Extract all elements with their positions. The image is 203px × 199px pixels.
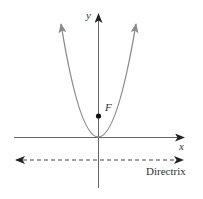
focus-label: F bbox=[104, 101, 112, 113]
parabola-diagram: y x F Directrix bbox=[0, 0, 203, 199]
parabola-left-arrow bbox=[61, 24, 98, 137]
y-axis-label: y bbox=[85, 9, 91, 21]
x-axis-label: x bbox=[178, 140, 184, 152]
directrix-label: Directrix bbox=[146, 165, 186, 177]
focus-point bbox=[96, 113, 101, 118]
